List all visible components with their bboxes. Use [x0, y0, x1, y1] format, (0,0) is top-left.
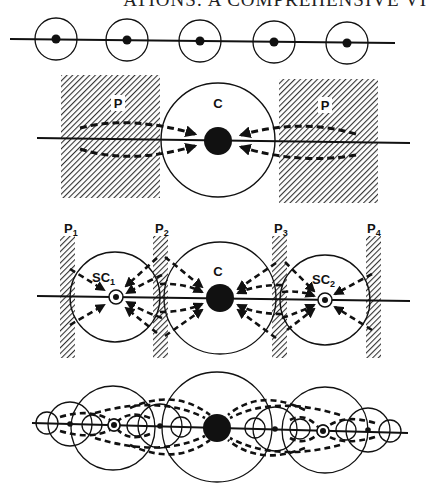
label-p4: P4 [367, 221, 381, 238]
subcenter-node-sc1 [109, 290, 123, 304]
label-periphery-left: P [114, 96, 123, 111]
panel-2: P P C [37, 75, 410, 203]
subcenter-node-sc2 [318, 293, 332, 307]
minor-node [365, 427, 371, 433]
panel-1 [10, 18, 395, 64]
minor-node [272, 426, 278, 432]
periphery-strip-p4 [366, 236, 381, 358]
panel-4 [32, 372, 408, 482]
label-p3: P3 [274, 221, 288, 238]
subcenter-node [108, 419, 120, 431]
label-sc1: SC1 [92, 270, 115, 287]
label-center: C [213, 264, 223, 279]
center-node [203, 414, 231, 442]
label-p1: P1 [64, 221, 78, 238]
periphery-zone-left [61, 75, 160, 198]
minor-node [157, 423, 163, 429]
center-node [206, 284, 234, 312]
minor-node [67, 421, 73, 427]
label-periphery-right: P [321, 98, 330, 113]
label-p2: P2 [155, 221, 169, 238]
subcenter-node [317, 425, 329, 437]
panel-3: P1 P2 P3 P4 SC1 C SC2 [37, 221, 410, 358]
center-node [204, 127, 232, 155]
label-sc2: SC2 [312, 272, 335, 289]
label-center: C [213, 96, 223, 111]
diagram: P P C P1 P2 P3 P4 SC1 C SC2 [0, 0, 427, 493]
